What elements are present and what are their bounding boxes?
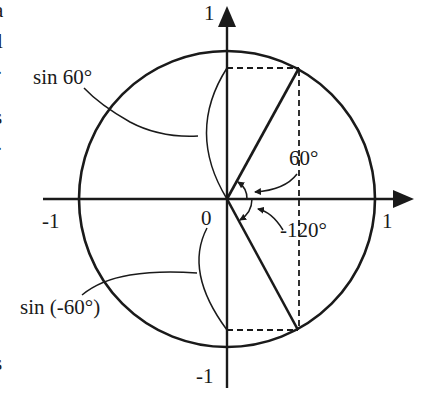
- x-axis: [43, 190, 414, 208]
- angle-neg120-label: -120°: [280, 218, 327, 242]
- svg-text:s: s: [0, 105, 2, 129]
- x-axis-arrow-icon: [393, 190, 414, 208]
- svg-text:s: s: [0, 351, 2, 375]
- unit-circle-diagram: a l · s · s: [0, 0, 424, 410]
- y-tick-pos-label: 1: [204, 1, 215, 25]
- origin-label: 0: [201, 206, 212, 230]
- y-tick-neg-label: -1: [196, 364, 214, 388]
- radius-60: [227, 68, 299, 199]
- x-tick-neg-label: -1: [42, 209, 60, 233]
- y-axis-arrow-icon: [218, 6, 236, 27]
- sin-60-label: sin 60°: [33, 65, 92, 89]
- svg-text:a: a: [0, 0, 4, 22]
- svg-text:·: ·: [0, 61, 3, 85]
- angle-60-label: 60°: [289, 146, 318, 170]
- svg-text:·: ·: [0, 137, 3, 161]
- sin-neg60-label: sin (-60°): [20, 295, 100, 319]
- svg-text:l: l: [0, 29, 3, 53]
- edge-text-fragments: a l · s · s: [0, 0, 4, 375]
- x-tick-pos-label: 1: [382, 209, 393, 233]
